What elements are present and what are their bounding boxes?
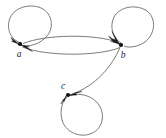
vertex-label-a: a: [17, 49, 22, 59]
edge-b-to-a-path: [23, 47, 121, 54]
edge-a-to-b-path: [23, 36, 119, 43]
self-loop-a-path: [9, 6, 52, 46]
self-loop-b-path: [112, 7, 154, 47]
self-loop-a-arrowhead: [11, 38, 19, 45]
edge-b-to-c-arrowhead: [68, 92, 82, 96]
vertex-c-dot[interactable]: [66, 93, 70, 97]
graph-figure: a b c: [0, 0, 166, 138]
self-loop-c-path: [61, 94, 102, 135]
self-loop-c-arrowhead: [61, 95, 67, 105]
vertex-label-c: c: [61, 81, 66, 91]
vertex-b-dot[interactable]: [119, 43, 123, 47]
vertex-a-dot[interactable]: [18, 42, 22, 46]
vertex-label-b: b: [121, 50, 126, 60]
graph-canvas: a b c: [0, 0, 166, 138]
